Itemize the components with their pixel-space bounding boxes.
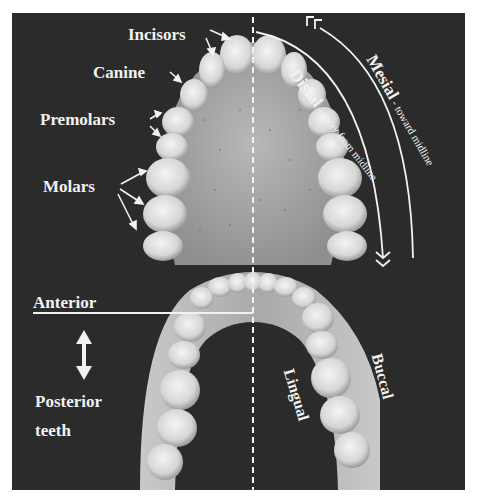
label-incisors: Incisors xyxy=(128,26,186,43)
upper-jaw xyxy=(143,35,367,265)
dental-anatomy-figure: Incisors Canine Premolars Molars Anterio… xyxy=(0,0,477,502)
label-molars: Molars xyxy=(43,178,95,195)
label-canine: Canine xyxy=(93,64,145,81)
label-premolars: Premolars xyxy=(40,111,115,128)
label-anterior: Anterior xyxy=(33,294,96,311)
anterior-posterior-arrow-icon xyxy=(76,330,92,380)
jaw-illustration xyxy=(0,0,477,502)
label-posterior-teeth: teeth xyxy=(35,422,71,439)
label-posterior: Posterior xyxy=(35,393,102,410)
mesial-chevrons-icon xyxy=(307,17,322,29)
lower-jaw xyxy=(140,272,380,490)
